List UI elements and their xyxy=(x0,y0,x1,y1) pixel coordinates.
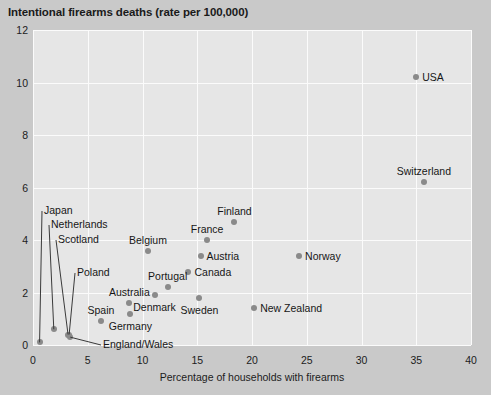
x-axis-tick-label: 10 xyxy=(128,354,158,366)
data-point-label: Poland xyxy=(77,266,110,278)
x-axis-tick-label: 15 xyxy=(182,354,212,366)
y-axis-tick-label: 6 xyxy=(4,182,28,194)
chart-title: Intentional firearms deaths (rate per 10… xyxy=(8,6,248,18)
data-point[interactable] xyxy=(126,300,132,306)
data-point[interactable] xyxy=(152,292,158,298)
data-point-label: France xyxy=(191,223,224,235)
data-point-label: Australia xyxy=(109,286,150,298)
data-point-label: Canada xyxy=(194,266,231,278)
data-point-label: England/Wales xyxy=(103,338,173,350)
data-point-label: Netherlands xyxy=(51,218,108,230)
y-axis-tick-label: 12 xyxy=(4,24,28,36)
gridline-horizontal xyxy=(33,293,471,294)
x-axis-tick-label: 0 xyxy=(18,354,48,366)
data-point-label: Japan xyxy=(44,204,73,216)
gridline-horizontal xyxy=(33,345,471,346)
data-point-label: Sweden xyxy=(180,304,218,316)
x-axis-tick-label: 20 xyxy=(237,354,267,366)
gridline-horizontal xyxy=(33,188,471,189)
data-point[interactable] xyxy=(67,334,73,340)
data-point-label: Finland xyxy=(217,205,251,217)
gridline-horizontal xyxy=(33,135,471,136)
data-point[interactable] xyxy=(196,295,202,301)
data-point-label: Germany xyxy=(109,320,152,332)
data-point-label: New Zealand xyxy=(260,302,322,314)
data-point-label: Switzerland xyxy=(397,165,451,177)
data-point-label: Norway xyxy=(305,250,341,262)
data-point[interactable] xyxy=(251,305,257,311)
data-point[interactable] xyxy=(413,74,419,80)
data-point[interactable] xyxy=(51,326,57,332)
data-point-label: Spain xyxy=(87,304,114,316)
y-axis-tick-label: 8 xyxy=(4,129,28,141)
data-point-label: Portugal xyxy=(148,270,187,282)
gridline-vertical xyxy=(471,30,472,345)
data-point[interactable] xyxy=(37,339,43,345)
y-axis-tick-label: 10 xyxy=(4,77,28,89)
data-point-label: Belgium xyxy=(129,234,167,246)
data-point[interactable] xyxy=(198,253,204,259)
data-point-label: Scotland xyxy=(58,233,99,245)
x-axis-tick-label: 30 xyxy=(347,354,377,366)
gridline-horizontal xyxy=(33,83,471,84)
x-axis-tick-label: 25 xyxy=(292,354,322,366)
data-point[interactable] xyxy=(231,219,237,225)
data-point[interactable] xyxy=(204,237,210,243)
data-point[interactable] xyxy=(421,179,427,185)
data-point[interactable] xyxy=(98,318,104,324)
x-axis-tick-label: 5 xyxy=(73,354,103,366)
y-axis-tick-label: 0 xyxy=(4,339,28,351)
gridline-horizontal xyxy=(33,30,471,31)
data-point[interactable] xyxy=(296,253,302,259)
x-axis-tick-label: 40 xyxy=(456,354,486,366)
data-point-label: USA xyxy=(422,71,444,83)
data-point-label: Austria xyxy=(207,250,240,262)
plot-area: USASwitzerlandFinlandFranceBelgiumAustri… xyxy=(33,30,471,345)
data-point[interactable] xyxy=(165,284,171,290)
y-axis-tick-label: 4 xyxy=(4,234,28,246)
x-axis-label: Percentage of households with firearms xyxy=(33,371,471,383)
y-axis-tick-label: 2 xyxy=(4,287,28,299)
data-point-label: Denmark xyxy=(133,301,176,313)
scatter-chart: Intentional firearms deaths (rate per 10… xyxy=(0,0,491,395)
x-axis-tick-label: 35 xyxy=(401,354,431,366)
data-point[interactable] xyxy=(145,248,151,254)
